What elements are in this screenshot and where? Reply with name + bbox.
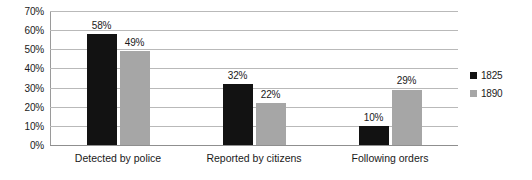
bar-1-0[interactable]: [120, 51, 150, 145]
y-axis-tick-label: 50%: [25, 44, 44, 55]
chart-legend: 18251890: [470, 66, 530, 102]
bar-1-2[interactable]: [392, 90, 422, 146]
legend-item-1890[interactable]: 1890: [470, 84, 530, 102]
legend-label: 1890: [481, 88, 502, 99]
bar-value-label: 10%: [364, 112, 383, 123]
x-axis-baseline: [50, 145, 458, 146]
y-axis-tick-label: 0%: [30, 140, 44, 151]
bar-chart: 0%10%20%30%40%50%60%70% 58%49%32%22%10%2…: [0, 0, 532, 180]
x-axis-category-labels: Detected by policeReported by citizensFo…: [50, 152, 458, 172]
legend-swatch-icon: [470, 90, 477, 97]
bar-1-1[interactable]: [256, 103, 286, 145]
bar-value-label: 32%: [228, 70, 247, 81]
x-axis-category-label: Reported by citizens: [206, 152, 301, 164]
legend-item-1825[interactable]: 1825: [470, 66, 530, 84]
plot-area: 58%49%32%22%10%29%: [50, 11, 458, 145]
bar-value-label: 22%: [261, 89, 280, 100]
y-axis-tick-label: 40%: [25, 63, 44, 74]
y-axis-tick-label: 10%: [25, 120, 44, 131]
y-axis-tick-label: 70%: [25, 6, 44, 17]
legend-swatch-icon: [470, 72, 477, 79]
y-axis-tick-label: 20%: [25, 101, 44, 112]
bar-value-label: 58%: [92, 20, 111, 31]
y-axis: 0%10%20%30%40%50%60%70%: [0, 0, 48, 145]
gridline: [50, 11, 458, 12]
bar-value-label: 29%: [397, 75, 416, 86]
y-axis-tick-label: 60%: [25, 25, 44, 36]
x-axis-category-label: Following orders: [351, 152, 428, 164]
y-axis-tick-label: 30%: [25, 82, 44, 93]
bar-0-1[interactable]: [223, 84, 253, 145]
bar-0-0[interactable]: [87, 34, 117, 145]
legend-label: 1825: [481, 70, 502, 81]
x-axis-category-label: Detected by police: [75, 152, 161, 164]
bar-0-2[interactable]: [359, 126, 389, 145]
bar-value-label: 49%: [125, 37, 144, 48]
